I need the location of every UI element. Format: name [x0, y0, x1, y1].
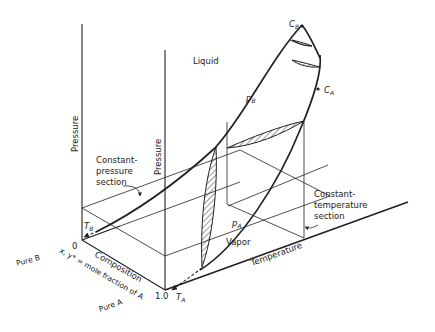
two-phase-lenses: [202, 40, 320, 267]
const-pressure-text-3: section: [96, 177, 127, 187]
const-temp-leader: [305, 225, 318, 228]
const-temp-text-3: section: [314, 211, 345, 221]
lens-upper-1: [292, 40, 312, 46]
one-label: 1.0: [155, 291, 169, 301]
const-pressure-text-1: Constant-: [96, 155, 137, 165]
labels: Liquid Vapor Pressure Pressure Temperatu…: [15, 19, 367, 314]
lens-constant-temp: [227, 121, 304, 148]
liquid-label: Liquid: [193, 56, 219, 66]
vapor-label: Vapor: [226, 237, 251, 247]
zero-label: 0: [72, 241, 77, 251]
ca-point: [316, 87, 319, 90]
pa-label: pA: [231, 218, 242, 229]
lens-upper-2: [292, 60, 320, 67]
const-pressure-text-2: pressure: [96, 166, 133, 176]
const-temp-text-2: temperature: [314, 200, 367, 210]
phase-diagram: Liquid Vapor Pressure Pressure Temperatu…: [0, 0, 435, 332]
pure-b-label: Pure B: [15, 253, 41, 268]
ca-label: CA: [324, 85, 334, 96]
lens-constant-pressure: [202, 147, 217, 267]
ta-label: TA: [176, 292, 185, 303]
cb-label: CB: [289, 19, 299, 30]
temperature-label: Temperature: [248, 240, 303, 268]
cb-point: [300, 24, 303, 27]
tb-label: TB: [84, 221, 93, 232]
const-temp-text-1: Constant-: [314, 189, 355, 199]
pressure-label-left: Pressure: [70, 116, 80, 152]
pa-curve: [200, 55, 320, 270]
pressure-label-right: Pressure: [153, 139, 163, 175]
pure-a-label: Pure A: [98, 297, 125, 314]
constant-temperature-plane: [227, 122, 328, 238]
